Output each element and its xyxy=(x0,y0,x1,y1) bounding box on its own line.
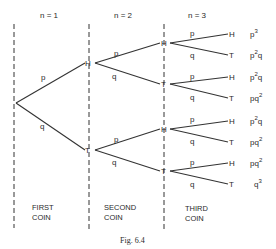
column-dividers xyxy=(14,24,164,230)
edge-label-q: q xyxy=(190,51,194,60)
tree-branches xyxy=(16,34,228,184)
outcome-prob: p2q xyxy=(250,71,262,82)
third-coin-label: COIN xyxy=(185,214,204,223)
outcome-prob: pq2 xyxy=(250,92,263,103)
n2-label: n = 2 xyxy=(114,11,133,20)
edge-label-p: p xyxy=(190,158,195,167)
outcome-probabilities: p3 p2q p2q pq2 p2q pq2 pq2 q3 xyxy=(250,28,263,189)
third-coin-label: THIRD xyxy=(185,204,208,213)
n1-label: n = 1 xyxy=(40,11,59,20)
figure-caption: Fig. 6.4 xyxy=(120,236,145,245)
outcome-prob: pq2 xyxy=(250,136,263,147)
edge-label-p: p xyxy=(190,29,195,38)
leaf-node-t: T xyxy=(229,51,234,60)
edge-label-q: q xyxy=(190,180,194,189)
node-t-level2: T xyxy=(161,167,166,176)
edge-label-p: p xyxy=(114,135,119,144)
leaf-node-t: T xyxy=(229,180,234,189)
node-t-level2: T xyxy=(161,80,166,89)
edge-label-q: q xyxy=(190,93,194,102)
node-t-level1: T xyxy=(85,146,90,155)
edge-label-q: q xyxy=(190,137,194,146)
edge-label-p: p xyxy=(114,49,119,58)
second-coin-label: SECOND xyxy=(104,203,137,212)
n3-label: n = 3 xyxy=(188,11,207,20)
edge-label-q: q xyxy=(112,72,116,81)
node-h-level1: H xyxy=(85,59,91,68)
leaf-node-h: H xyxy=(229,117,235,126)
outcome-prob: p3 xyxy=(250,28,258,39)
leaf-node-h: H xyxy=(229,30,235,39)
outcome-prob: pq2 xyxy=(250,157,263,168)
edge-label-p: p xyxy=(190,115,195,124)
edge-label-q: q xyxy=(40,122,44,131)
probability-tree-diagram: n = 1 n = 2 n = 3 p q H T p q p q H T H … xyxy=(0,0,276,249)
outcome-prob: p2q xyxy=(250,49,262,60)
node-h-level2: H xyxy=(161,39,167,48)
second-coin-label: COIN xyxy=(104,213,123,222)
leaf-node-t: T xyxy=(229,138,234,147)
node-h-level2: H xyxy=(161,125,167,134)
first-coin-label: COIN xyxy=(32,213,51,222)
leaf-node-h: H xyxy=(229,159,235,168)
leaf-node-t: T xyxy=(229,94,234,103)
outcome-prob: p2q xyxy=(250,115,262,126)
first-coin-label: FIRST xyxy=(32,203,54,212)
edge-label-q: q xyxy=(112,158,116,167)
edge-label-p: p xyxy=(41,73,46,82)
outcome-prob: q3 xyxy=(254,178,262,189)
leaf-node-h: H xyxy=(229,73,235,82)
edge-label-p: p xyxy=(190,72,195,81)
